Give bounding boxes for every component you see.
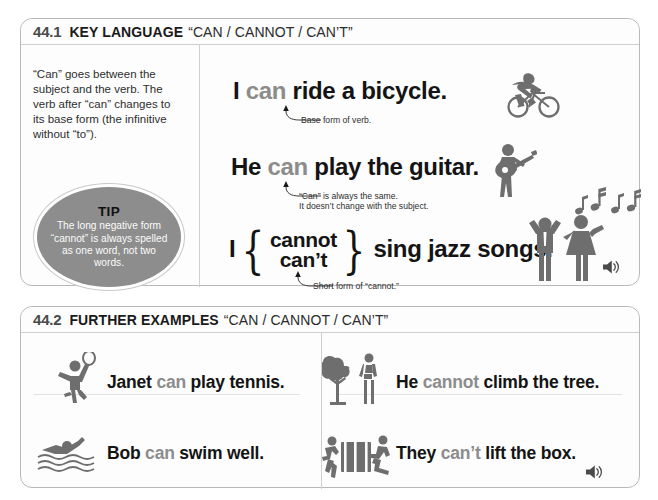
annotation-1: Base form of verb. — [301, 115, 371, 125]
section-title: KEY LANGUAGE — [69, 24, 183, 40]
further-example-1: Janet can play tennis. — [107, 372, 285, 393]
annotation-2-line2: It doesn’t change with the subject. — [299, 201, 428, 211]
further-example-4: They can’t lift the box. — [396, 443, 576, 464]
further-3-post: climb the tree. — [479, 372, 599, 392]
further-4-keyword: can’t — [441, 443, 481, 463]
sentence-2-keyword: can — [267, 153, 307, 180]
further-3-pre: He — [396, 372, 423, 392]
section-number: 44.1 — [33, 23, 61, 40]
annotation-3: Short form of “cannot.” — [313, 281, 399, 291]
guitarist-icon — [491, 143, 537, 199]
section-number-2: 44.2 — [33, 311, 61, 328]
further-4-pre: They — [396, 443, 441, 463]
section-subtitle-2: “CAN / CANNOT / CAN’T” — [224, 312, 389, 328]
explanation-text: “Can” goes between the subject and the v… — [33, 67, 185, 143]
sentence-1-keyword: can — [246, 77, 286, 104]
tennis-player-icon — [56, 352, 100, 404]
sentence-1-post: ride a bicycle. — [286, 77, 447, 104]
panel-key-language: 44.1 KEY LANGUAGE “CAN / CANNOT / CAN’T”… — [20, 18, 640, 286]
further-example-3: He cannot climb the tree. — [396, 372, 599, 393]
worksheet-page: 44.1 KEY LANGUAGE “CAN / CANNOT / CAN’T”… — [0, 0, 658, 500]
further-example-2: Bob can swim well. — [107, 443, 264, 464]
speaker-icon-2[interactable] — [584, 464, 604, 480]
annotation-2-line1: “Can” is always the same. — [299, 191, 428, 201]
column-divider — [199, 45, 200, 287]
further-3-keyword: cannot — [423, 372, 479, 392]
further-4-post: lift the box. — [481, 443, 576, 463]
singers-icon — [521, 211, 605, 283]
further-1-pre: Janet — [107, 372, 156, 392]
further-1-post: play tennis. — [186, 372, 285, 392]
section-title-2: FURTHER EXAMPLES — [69, 312, 218, 328]
tree-and-person-icon — [322, 352, 390, 406]
example-sentence-3: I{cannotcan’t}sing jazz songs. — [229, 231, 553, 271]
further-1-keyword: can — [156, 372, 186, 392]
people-lifting-box-icon — [322, 434, 394, 482]
panel-further-examples-header: 44.2 FURTHER EXAMPLES “CAN / CANNOT / CA… — [21, 307, 639, 333]
sentence-1-pre: I — [233, 77, 246, 104]
further-2-post: swim well. — [175, 443, 264, 463]
panel-key-language-header: 44.1 KEY LANGUAGE “CAN / CANNOT / CAN’T” — [21, 19, 639, 45]
brace-group: {cannotcan’t} — [237, 230, 369, 270]
further-2-pre: Bob — [107, 443, 145, 463]
annotation-2: “Can” is always the same. It doesn’t cha… — [299, 191, 428, 212]
swimmer-icon — [36, 436, 100, 472]
further-2-keyword: can — [145, 443, 175, 463]
cyclist-icon — [505, 71, 561, 119]
brace-option-long: cannot — [270, 230, 337, 250]
section-subtitle: “CAN / CANNOT / CAN’T” — [188, 24, 353, 40]
tip-body: The long negative form “cannot” is alway… — [47, 220, 171, 270]
example-sentence-1: I can ride a bicycle. — [233, 77, 447, 105]
sentence-2-pre: He — [231, 153, 267, 180]
speaker-icon[interactable] — [601, 259, 621, 275]
tip-label: TIP — [98, 204, 120, 219]
example-sentence-2: He can play the guitar. — [231, 153, 479, 181]
sentence-2-post: play the guitar. — [308, 153, 479, 180]
sentence-3-pre: I — [229, 235, 235, 262]
brace-option-short: can’t — [270, 250, 337, 270]
tip-callout: TIP The long negative form “cannot” is a… — [37, 187, 181, 287]
